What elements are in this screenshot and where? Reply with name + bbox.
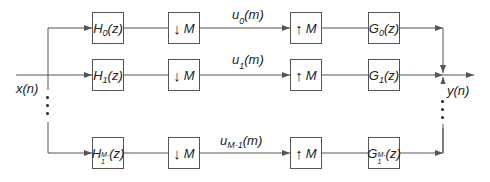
filter-subscript: M-1 <box>377 151 385 165</box>
interpolation-factor: M <box>306 21 317 36</box>
signal-arg: (m) <box>243 133 263 148</box>
synthesis-filter-gm1: GM-1(z) <box>368 137 400 169</box>
down-arrow-icon: ↓ <box>173 20 181 37</box>
down-arrow-icon: ↓ <box>173 67 181 84</box>
signal-subscript: 1 <box>239 61 244 71</box>
signal-lines <box>0 0 490 182</box>
up-arrow-icon: ↑ <box>295 145 303 162</box>
subband-signal-u0: u0(m) <box>232 8 264 21</box>
input-label: x(n) <box>16 82 38 95</box>
analysis-filter-hm1: HM-1(z) <box>92 137 124 169</box>
decimation-factor: M <box>184 21 195 36</box>
up-arrow-icon: ↑ <box>295 20 303 37</box>
output-label: y(n) <box>447 84 469 97</box>
filter-arg: (z) <box>384 21 399 36</box>
decimation-factor: M <box>184 146 195 161</box>
filter-arg: (z) <box>384 68 399 83</box>
input-ellipsis <box>46 96 50 120</box>
filter-subscript: 0 <box>103 28 108 38</box>
filter-subscript: M-1 <box>101 151 109 165</box>
signal-arg: (m) <box>244 7 264 22</box>
output-ellipsis <box>441 100 445 124</box>
subband-signal-um1: uM-1(m) <box>220 134 262 147</box>
filter-subscript: 1 <box>379 75 384 85</box>
down-arrow-icon: ↓ <box>173 145 181 162</box>
filter-subscript: 1 <box>103 75 108 85</box>
upsampler-1: ↑M <box>290 59 322 91</box>
filter-name: H <box>92 146 101 161</box>
downsampler-1: ↓M <box>168 59 200 91</box>
filter-arg: (z) <box>109 146 124 161</box>
subband-signal-u1: u1(m) <box>232 53 264 66</box>
upsampler-0: ↑M <box>290 12 322 44</box>
filter-arg: (z) <box>386 146 401 161</box>
filter-name: G <box>367 146 377 161</box>
filter-name: G <box>369 68 379 83</box>
synthesis-filter-g1: G1(z) <box>368 59 400 91</box>
analysis-filter-h1: H1(z) <box>92 59 124 91</box>
upsampler-m1: ↑M <box>290 137 322 169</box>
signal-arg: (m) <box>244 52 264 67</box>
interpolation-factor: M <box>306 68 317 83</box>
synthesis-filter-g0: G0(z) <box>368 12 400 44</box>
signal-subscript: 0 <box>239 16 244 26</box>
analysis-filter-h0: H0(z) <box>92 12 124 44</box>
filter-name: H <box>93 68 102 83</box>
interpolation-factor: M <box>306 146 317 161</box>
decimation-factor: M <box>184 68 195 83</box>
downsampler-m1: ↓M <box>168 137 200 169</box>
filter-name: G <box>369 21 379 36</box>
downsampler-0: ↓M <box>168 12 200 44</box>
filter-subscript: 0 <box>379 28 384 38</box>
filter-name: H <box>93 21 102 36</box>
signal-subscript: M-1 <box>227 140 243 150</box>
filter-arg: (z) <box>108 21 123 36</box>
filter-arg: (z) <box>108 68 123 83</box>
up-arrow-icon: ↑ <box>295 67 303 84</box>
